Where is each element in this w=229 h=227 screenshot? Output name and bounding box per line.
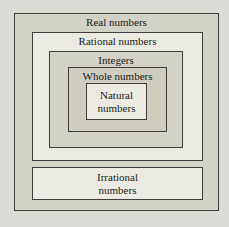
set-label-natural-numbers: Natural numbers [87,89,146,115]
set-label-integers: Integers [50,54,182,67]
set-box-irrational-numbers: Irrational numbers [32,167,203,200]
set-label-whole-numbers: Whole numbers [69,70,166,83]
set-label-rational-numbers: Rational numbers [33,35,202,48]
number-sets-diagram: Real numbers Rational numbers Integers W… [0,0,229,227]
natural-numbers-label-line2: numbers [87,102,146,115]
irrational-numbers-label-line2: numbers [33,184,202,197]
set-box-natural-numbers: Natural numbers [86,83,147,120]
set-label-irrational-numbers: Irrational numbers [33,171,202,197]
irrational-numbers-label-line1: Irrational [33,171,202,184]
natural-numbers-label-line1: Natural [87,89,146,102]
set-label-real-numbers: Real numbers [15,16,218,29]
